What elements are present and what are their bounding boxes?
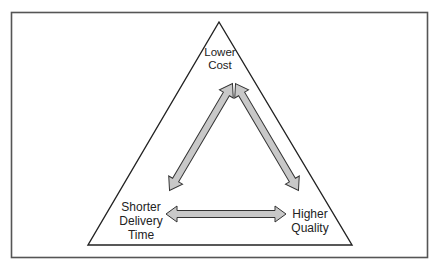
arrow-cost-quality <box>229 80 306 195</box>
node-label-line: Cost <box>199 59 241 72</box>
node-label-line: Quality <box>285 221 335 235</box>
node-label-line: Higher <box>285 207 335 221</box>
node-shorter-delivery-time: Shorter Delivery Time <box>112 200 170 242</box>
node-lower-cost: Lower Cost <box>199 46 241 72</box>
node-label-line: Shorter <box>112 200 170 214</box>
arrow-delivery-quality <box>166 206 286 222</box>
diagram-canvas <box>0 0 436 266</box>
node-label-line: Lower <box>199 46 241 59</box>
arrow-cost-delivery <box>163 80 240 195</box>
node-label-line: Time <box>112 228 170 242</box>
node-label-line: Delivery <box>112 214 170 228</box>
node-higher-quality: Higher Quality <box>285 207 335 235</box>
